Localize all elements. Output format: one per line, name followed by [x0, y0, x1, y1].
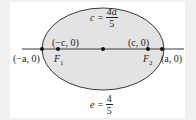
formula-lhs: c = — [90, 12, 104, 23]
center-dot — [101, 47, 105, 51]
left-vertex-label: (−a, 0) — [13, 54, 40, 64]
focal-distance-formula: c = 4a 5 — [90, 6, 118, 29]
left-vertex-dot — [40, 47, 44, 51]
right-focus-label: F2 — [143, 54, 153, 67]
formula-numerator: 4a — [106, 6, 118, 18]
left-focus-coord: (−c, 0) — [52, 38, 79, 48]
formula-lhs: e = — [90, 99, 104, 110]
right-vertex-label: (a, 0) — [161, 54, 182, 64]
formula-denominator: 5 — [109, 18, 114, 29]
formula-denominator: 5 — [107, 105, 112, 116]
right-vertex-dot — [160, 47, 164, 51]
right-focus-coord: (c, 0) — [128, 38, 149, 48]
left-focus-label: F1 — [54, 54, 64, 67]
formula-numerator: 4 — [106, 93, 113, 105]
eccentricity-formula: e = 4 5 — [90, 93, 113, 116]
